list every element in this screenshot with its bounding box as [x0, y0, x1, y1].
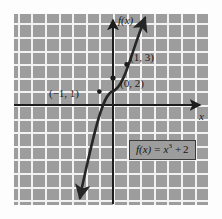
equation-plus: + [175, 143, 181, 155]
point-marker-zero [110, 75, 115, 80]
equation-lhs: f(x) [136, 143, 151, 155]
equation-exponent: 3 [168, 142, 172, 150]
point-label-zero: (0, 2) [120, 78, 144, 89]
point-marker-neg1 [97, 89, 102, 94]
x-axis-label: x [199, 111, 204, 122]
point-label-one: (1, 3) [130, 52, 154, 63]
graph-artwork [0, 0, 222, 219]
y-axis-label: f(x) [118, 15, 133, 26]
equation-equals: = [154, 143, 160, 155]
equation-box: f(x)=x3+2 [129, 140, 196, 160]
graph-figure: f(x) x (1, 3) (0, 2) (−1, 1) f(x)=x3+2 [0, 0, 222, 219]
point-label-neg-one: (−1, 1) [49, 88, 79, 99]
equation-constant: 2 [183, 143, 189, 155]
point-marker-one [124, 62, 129, 67]
